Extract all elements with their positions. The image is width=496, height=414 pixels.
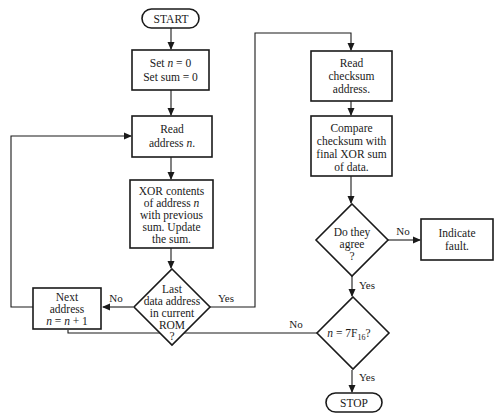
compare-process: Compare checksum with final XOR sum of d…	[311, 116, 392, 176]
label-agree-no: No	[396, 225, 410, 237]
xor-line-5: the sum.	[152, 233, 191, 245]
next-line-1: Next	[56, 291, 79, 303]
compare-line-2: checksum with	[317, 135, 387, 147]
label-last-no: No	[109, 292, 123, 304]
compare-line-1: Compare	[330, 122, 372, 135]
compare-line-3: final XOR sum	[316, 148, 386, 160]
stop-label: STOP	[340, 397, 368, 409]
last-line-1: Last	[162, 283, 183, 295]
next-address-process: Next address n = n + 1	[33, 288, 101, 329]
label-final-yes: Yes	[359, 371, 375, 383]
last-line-5: ?	[169, 330, 174, 342]
flowchart: START Set n = 0 Set sum = 0 Read address…	[0, 0, 496, 414]
read-checksum-process: Read checksum address.	[311, 51, 392, 101]
next-line-2: address	[50, 303, 85, 315]
last-line-2: data address	[144, 295, 201, 307]
next-line-3: n = n + 1	[46, 315, 88, 327]
readck-line-2: checksum	[329, 70, 375, 82]
edge-final-no-line	[68, 330, 317, 333]
start-terminal: START	[142, 9, 199, 28]
read-address-line-2: address n.	[149, 137, 195, 149]
fault-line-2: fault.	[445, 240, 469, 252]
read-address-line-1: Read	[160, 123, 184, 135]
fault-line-1: Indicate	[438, 227, 475, 239]
label-last-yes: Yes	[218, 292, 234, 304]
read-address-process: Read address n.	[132, 116, 212, 157]
init-process: Set n = 0 Set sum = 0	[132, 50, 209, 90]
readck-line-1: Read	[340, 57, 364, 69]
agree-decision: Do they agree ?	[316, 204, 388, 276]
readck-line-3: address.	[333, 83, 370, 95]
init-line-1: Set n = 0	[150, 57, 192, 69]
compare-line-4: of data.	[334, 161, 369, 173]
xor-line-2: of address n	[144, 197, 200, 209]
last-address-decision: Last data address in current ROM ?	[134, 269, 210, 345]
fault-process: Indicate fault.	[421, 219, 493, 260]
xor-process: XOR contents of address n with previous …	[130, 180, 213, 248]
label-final-no: No	[289, 318, 303, 330]
final-address-decision: n = 7F16?	[317, 297, 389, 369]
label-agree-yes: Yes	[359, 279, 375, 291]
agree-line-3: ?	[349, 250, 354, 262]
last-line-3: in current	[150, 307, 195, 319]
start-label: START	[154, 13, 189, 25]
stop-terminal: STOP	[326, 393, 382, 412]
edge-next-loop	[11, 136, 131, 307]
init-line-2: Set sum = 0	[143, 71, 198, 83]
xor-line-1: XOR contents	[139, 185, 205, 197]
